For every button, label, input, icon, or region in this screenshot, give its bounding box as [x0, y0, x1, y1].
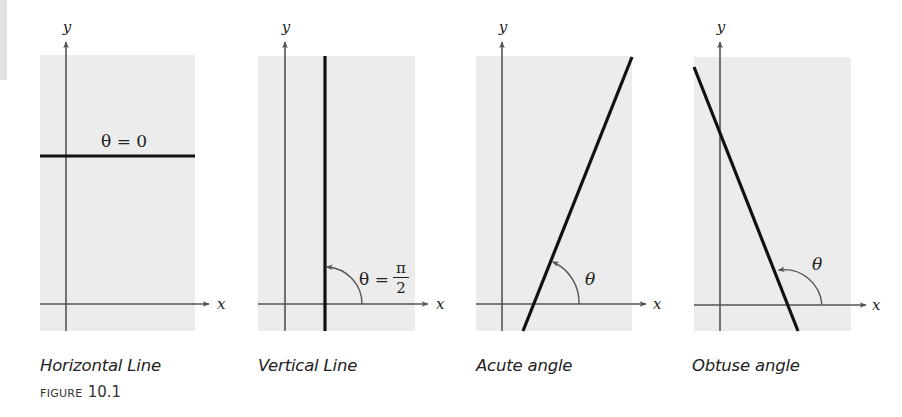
- caption-horizontal-line: Horizontal Line: [40, 356, 161, 375]
- panel-vertical-line: y x θ = π 2: [258, 18, 445, 331]
- panel-background: [258, 56, 415, 331]
- x-axis-label: x: [436, 295, 445, 313]
- panel-background: [476, 56, 632, 331]
- panel-horizontal-line: y x θ = 0: [40, 18, 226, 331]
- panel-background: [40, 55, 195, 331]
- caption-acute-angle: Acute angle: [476, 356, 572, 375]
- angle-label: θ: [812, 254, 822, 274]
- caption-vertical-line: Vertical Line: [258, 356, 357, 375]
- x-axis-label: x: [217, 295, 226, 313]
- panel-background: [694, 57, 851, 331]
- angle-label-denominator: 2: [396, 279, 406, 297]
- panel-acute-angle: y x θ: [476, 18, 662, 331]
- angle-label: θ: [585, 269, 595, 289]
- angle-label-theta: θ =: [359, 269, 389, 289]
- x-axis-label: x: [872, 296, 881, 314]
- angle-label-numerator: π: [396, 259, 406, 277]
- angle-label: θ = 0: [101, 131, 147, 151]
- panel-obtuse-angle: y x θ: [694, 18, 881, 331]
- figure-label-word: FIGURE: [40, 387, 83, 400]
- figure-10-1: y x θ = 0 y x θ = π 2 y x θ: [0, 0, 902, 417]
- figure-label: FIGURE 10.1: [40, 382, 121, 401]
- x-axis-label: x: [653, 295, 662, 313]
- page-edge-strip: [0, 0, 7, 80]
- inclination-diagram: y x θ = 0 y x θ = π 2 y x θ: [0, 0, 902, 417]
- y-axis-label: y: [62, 18, 72, 36]
- y-axis-label: y: [716, 18, 726, 36]
- y-axis-label: y: [281, 18, 291, 36]
- caption-obtuse-angle: Obtuse angle: [692, 356, 800, 375]
- figure-label-number: 10.1: [88, 383, 121, 401]
- y-axis-label: y: [498, 18, 508, 36]
